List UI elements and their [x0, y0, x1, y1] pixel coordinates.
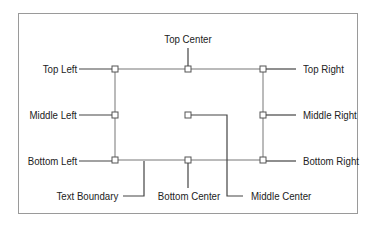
label-top-center: Top Center [156, 33, 219, 45]
handle-bottom-left [112, 157, 118, 163]
label-bottom-left: Bottom Left [27, 155, 77, 167]
handle-bottom-right [260, 157, 266, 163]
handle-bottom-center [185, 157, 191, 163]
leader-text-boundary [123, 161, 144, 196]
handle-middle-left [112, 112, 118, 118]
handle-middle-center [185, 112, 191, 118]
label-bottom-center: Bottom Center [153, 190, 225, 202]
leader-middle-center [191, 115, 243, 196]
label-middle-left: Middle Left [30, 109, 77, 121]
label-middle-center: Middle Center [251, 190, 311, 202]
label-top-right: Top Right [303, 63, 344, 75]
label-bottom-right: Bottom Right [303, 155, 359, 167]
label-top-left: Top Left [43, 63, 77, 75]
handle-top-right [260, 66, 266, 72]
label-text-boundary: Text Boundary [56, 190, 118, 202]
handle-top-left [112, 66, 118, 72]
label-middle-right: Middle Right [303, 109, 357, 121]
handle-middle-right [260, 112, 266, 118]
handle-top-center [185, 66, 191, 72]
